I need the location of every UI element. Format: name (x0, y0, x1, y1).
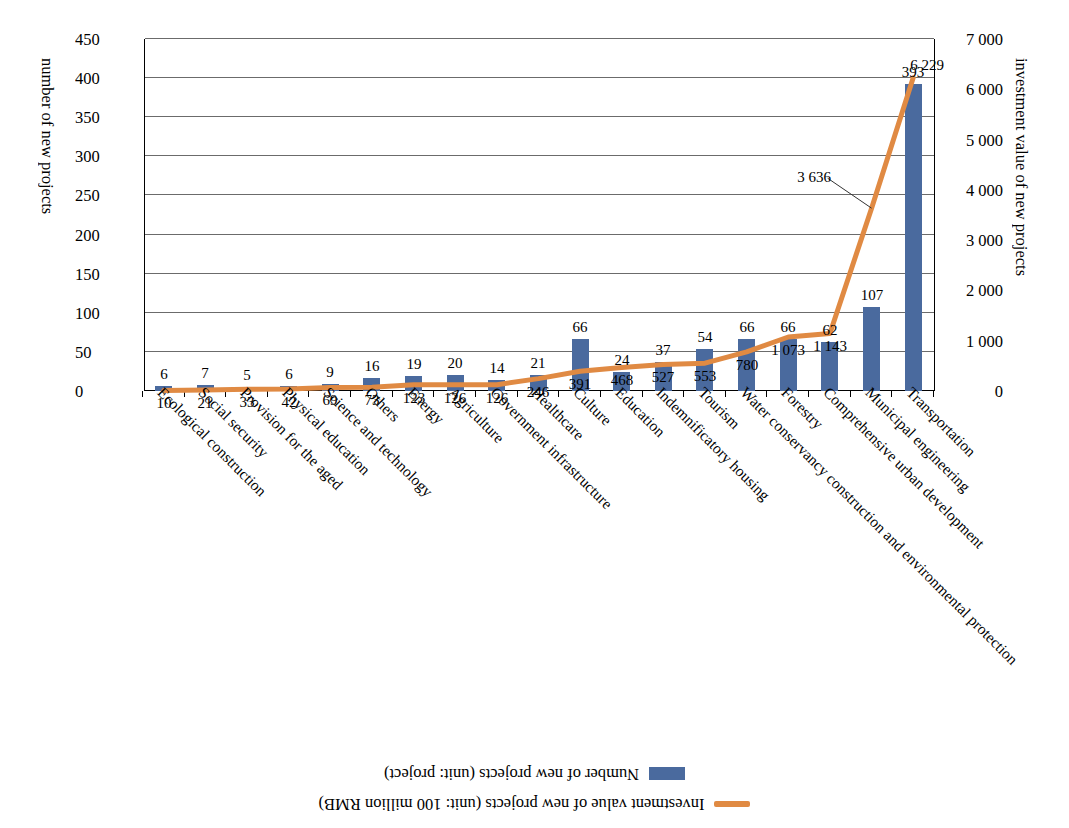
axis-tickmark (850, 391, 851, 397)
bar-value-label: 54 (683, 329, 727, 346)
bar-value-label: 6 (142, 366, 186, 383)
bar-value-label: 9 (308, 364, 352, 381)
axis-tickmark (767, 391, 768, 397)
right-axis-tick-label: 200 (75, 226, 137, 246)
right-axis-tick-label: 250 (75, 186, 137, 206)
legend-bar-swatch-icon (649, 768, 685, 781)
bar-value-label: 66 (766, 319, 810, 336)
bar (863, 307, 880, 391)
axis-tickmark (933, 391, 934, 397)
plot-area: 39310762666654372466211420191696576 6 22… (144, 39, 935, 391)
gridline (145, 194, 934, 195)
chart-figure: Investment value of new projects (unit: … (0, 0, 1069, 828)
right-axis-tick-label: 0 (75, 382, 137, 402)
bar-value-label: 66 (725, 319, 769, 336)
bar-value-label: 66 (558, 319, 602, 336)
gridline (145, 312, 934, 313)
left-axis-tick-label: 7 000 (941, 30, 1003, 50)
bar-value-label: 7 (183, 366, 227, 383)
legend-item-number-of-projects: Number of new projects (unit: project) (384, 764, 685, 784)
gridline (145, 116, 934, 117)
right-axis-tick-label: 100 (75, 304, 137, 324)
legend-item-label: Number of new projects (unit: project) (384, 764, 639, 784)
left-axis-tick-label: 5 000 (941, 131, 1003, 151)
bar-value-label: 37 (641, 342, 685, 359)
line-value-label: 6 229 (901, 57, 953, 74)
axis-tickmark (891, 391, 892, 397)
bar-value-label: 6 (267, 366, 311, 383)
right-axis-tick-label: 450 (75, 30, 137, 50)
gridline (145, 77, 934, 78)
left-axis-title: investment value of new projects (1011, 58, 1031, 358)
right-axis-tick-label: 150 (75, 265, 137, 285)
bar-value-label: 14 (475, 360, 519, 377)
axis-tickmark (808, 391, 809, 397)
bar-value-label: 62 (808, 323, 852, 340)
right-axis-tick-label: 300 (75, 147, 137, 167)
left-axis-tick-label: 6 000 (941, 80, 1003, 100)
bar-value-label: 20 (433, 355, 477, 372)
gridline (145, 155, 934, 156)
category-label: Comprehensive urban development (820, 384, 989, 553)
line-value-label: 3 636 (788, 169, 840, 186)
right-axis-tick-label: 350 (75, 108, 137, 128)
axis-tickmark (683, 391, 684, 397)
left-axis-tick-label: 2 000 (941, 281, 1003, 301)
bar-value-label: 19 (392, 356, 436, 373)
bar-value-label: 21 (517, 355, 561, 372)
right-axis-tick-label: 50 (75, 343, 137, 363)
chart-legend: Investment value of new projects (unit: … (0, 764, 1069, 814)
left-axis-tick-label: 4 000 (941, 181, 1003, 201)
axis-tickmark (642, 391, 643, 397)
gridline (145, 234, 934, 235)
gridline (145, 273, 934, 274)
gridline (145, 38, 934, 39)
right-axis-tick-label: 400 (75, 69, 137, 89)
left-axis-tick-label: 3 000 (941, 231, 1003, 251)
right-axis-title: number of new projects (37, 58, 57, 308)
legend-line-swatch-icon (714, 801, 750, 807)
bar-value-label: 24 (600, 352, 644, 369)
bar-value-label: 107 (850, 287, 894, 304)
bar-value-label: 5 (225, 367, 269, 384)
legend-item-investment-value: Investment value of new projects (unit: … (319, 794, 751, 814)
left-axis-tick-label: 0 (941, 382, 1003, 402)
legend-item-label: Investment value of new projects (unit: … (319, 794, 705, 814)
left-axis-tick-label: 1 000 (941, 332, 1003, 352)
bar (905, 84, 922, 391)
category-label: Water conservancy construction and envir… (736, 384, 1021, 669)
bar-value-label: 16 (350, 359, 394, 376)
axis-tickmark (725, 391, 726, 397)
